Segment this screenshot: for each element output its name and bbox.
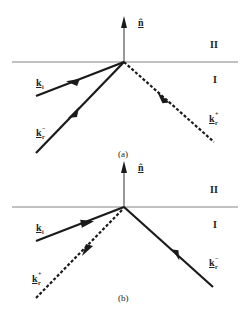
label-k-r-plus: k r + bbox=[209, 111, 219, 126]
svg-text:+: + bbox=[215, 111, 219, 117]
vector-k-r-plus bbox=[36, 210, 122, 298]
caption-a: (a) bbox=[118, 149, 128, 159]
svg-text:r: r bbox=[38, 280, 41, 286]
caption-b: (b) bbox=[118, 293, 129, 303]
normal-label: n̂ bbox=[138, 162, 144, 173]
region-ii-label: II bbox=[210, 184, 218, 195]
diagram-canvas: n̂ II I k i k r − k r + bbox=[0, 0, 248, 315]
normal-label: n̂ bbox=[138, 17, 144, 28]
label-k-r-plus: k r + bbox=[32, 271, 42, 286]
label-k-r-minus: k r − bbox=[36, 125, 46, 140]
label-k-r-minus: k r − bbox=[209, 255, 219, 270]
vector-k-r-minus bbox=[36, 62, 124, 153]
svg-text:+: + bbox=[38, 271, 42, 277]
panel-a: n̂ II I k i k r − k r + bbox=[12, 16, 238, 159]
region-i-label: I bbox=[213, 219, 217, 230]
vector-k-r-minus bbox=[124, 207, 213, 287]
normal-vector-arrow bbox=[121, 161, 127, 207]
svg-text:−: − bbox=[42, 125, 46, 131]
svg-text:r: r bbox=[215, 264, 218, 270]
normal-vector-arrow bbox=[121, 16, 127, 62]
svg-text:i: i bbox=[42, 229, 44, 235]
svg-text:−: − bbox=[215, 255, 219, 261]
label-k-i: k i bbox=[36, 222, 44, 235]
panel-b: n̂ II I k i k r + k r − bbox=[12, 161, 238, 303]
svg-text:i: i bbox=[42, 84, 44, 90]
svg-text:r: r bbox=[215, 120, 218, 126]
vector-k-i bbox=[36, 62, 124, 96]
label-k-i: k i bbox=[36, 77, 44, 90]
region-ii-label: II bbox=[210, 39, 218, 50]
svg-text:r: r bbox=[42, 134, 45, 140]
vector-k-r-plus bbox=[124, 62, 214, 142]
region-i-label: I bbox=[213, 74, 217, 85]
vector-k-i bbox=[36, 207, 124, 241]
